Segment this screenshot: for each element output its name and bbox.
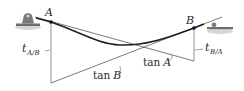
label-tan-a: tanA: [143, 55, 172, 69]
svg-text:tanA: tanA: [143, 56, 171, 69]
label-t-ab: t A/B: [22, 42, 50, 57]
tangent-line-a: [35, 17, 194, 61]
label-a: A: [44, 6, 53, 19]
point-a: [49, 20, 53, 24]
label-t-ba: t B/A: [195, 41, 223, 56]
label-b: B: [185, 14, 194, 27]
svg-text:B/A: B/A: [209, 48, 223, 56]
pin-support-left: [15, 13, 41, 30]
elastic-curve: [36, 18, 204, 45]
roller-support-right: [207, 22, 233, 34]
label-tan-b: tanB: [93, 66, 121, 82]
svg-text:tanB: tanB: [93, 69, 121, 82]
beam-deflection-diagram: A B t A/B t B/A tanB tanA: [0, 0, 244, 91]
svg-text:A/B: A/B: [26, 49, 40, 57]
